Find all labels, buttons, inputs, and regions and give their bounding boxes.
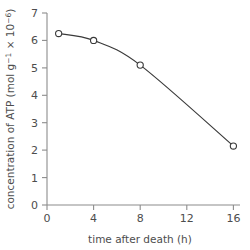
y-tick-label-0: 0 [31,199,38,212]
atp-concentration-chart: 0 1 2 3 4 5 6 7 0 4 8 12 16 [0,0,250,250]
x-axis-tick-labels: 0 4 8 12 16 [44,212,241,225]
data-point-marker [91,37,97,43]
y-axis-title-mid: × 10 [4,24,16,53]
x-axis-title: time after death (h) [88,233,192,245]
chart-canvas: 0 1 2 3 4 5 6 7 0 4 8 12 16 [0,0,250,250]
y-axis-tick-labels: 0 1 2 3 4 5 6 7 [31,7,38,212]
y-tick-label-2: 2 [31,144,38,157]
y-axis-title-sup2: −6 [4,13,13,24]
x-tick-label-12: 12 [180,212,194,225]
y-tick-label-5: 5 [31,62,38,75]
data-point-marker [137,62,143,68]
axes-group [47,13,240,205]
y-tick-label-3: 3 [31,117,38,130]
y-tick-label-1: 1 [31,172,38,185]
y-axis-ticks [42,13,47,205]
data-markers [56,30,237,149]
x-tick-label-4: 4 [90,212,97,225]
data-series-atp [59,34,234,146]
x-tick-label-16: 16 [226,212,240,225]
x-axis-ticks [47,205,233,210]
x-tick-label-0: 0 [44,212,51,225]
y-axis-title: concentration of ATP (mol g−1 × 10−6) [4,9,17,210]
y-axis-title-main: concentration of ATP (mol g [4,64,16,210]
y-tick-label-4: 4 [31,89,38,102]
y-axis-title-sup1: −1 [4,52,13,63]
x-tick-label-8: 8 [137,212,144,225]
data-point-marker [56,30,62,36]
data-point-marker [230,143,236,149]
y-tick-label-7: 7 [31,7,38,20]
data-line-atp [59,34,234,146]
y-axis-title-end: ) [4,9,16,13]
y-tick-label-6: 6 [31,34,38,47]
